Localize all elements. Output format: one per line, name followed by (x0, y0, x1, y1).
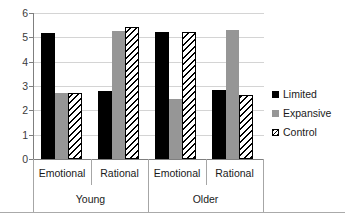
bottom-rule (0, 212, 345, 213)
bar-control-older-emotional[interactable] (182, 32, 196, 159)
y-axis-label-5: 5 (4, 32, 28, 43)
legend-label-limited: Limited (283, 89, 317, 100)
bar-limited-young-emotional[interactable] (41, 33, 55, 159)
bar-group-older-rational (210, 13, 258, 159)
legend-label-expansive: Expansive (283, 108, 331, 119)
bar-control-young-rational[interactable] (125, 27, 139, 159)
x-axis-label-emotional-young: Emotional (33, 168, 91, 179)
legend-swatch-limited-icon (272, 91, 279, 98)
legend: Limited Expansive Control (272, 86, 345, 143)
cat-separator-right (263, 159, 264, 212)
legend-label-control: Control (283, 127, 317, 138)
y-axis-label-6: 6 (4, 8, 28, 19)
bar-group-young-rational (96, 13, 144, 159)
y-axis-label-3: 3 (4, 81, 28, 92)
bar-expansive-young-emotional[interactable] (55, 93, 68, 159)
legend-swatch-control-icon (272, 129, 279, 136)
x-axis-group-label-young: Young (33, 194, 148, 205)
bar-expansive-older-rational[interactable] (226, 30, 239, 159)
x-axis-label-rational-young: Rational (91, 168, 148, 179)
y-axis-label-0: 0 (4, 154, 28, 165)
y-axis-label-1: 1 (4, 130, 28, 141)
legend-item-limited[interactable]: Limited (272, 86, 345, 102)
bar-limited-young-rational[interactable] (98, 91, 112, 159)
bar-expansive-older-emotional[interactable] (169, 99, 182, 159)
y-axis-label-2: 2 (4, 105, 28, 116)
bars-layer (33, 13, 264, 159)
bar-limited-older-emotional[interactable] (155, 32, 169, 159)
bar-group-young-emotional (39, 13, 87, 159)
bar-control-older-rational[interactable] (239, 95, 253, 159)
x-axis-group-label-older: Older (148, 194, 263, 205)
legend-item-expansive[interactable]: Expansive (272, 105, 345, 121)
y-axis-label-4: 4 (4, 57, 28, 68)
bar-expansive-young-rational[interactable] (112, 31, 125, 159)
bar-control-young-emotional[interactable] (68, 93, 82, 159)
x-axis-label-rational-older: Rational (206, 168, 263, 179)
legend-swatch-expansive-icon (272, 110, 279, 117)
bar-chart: 6 5 4 3 2 1 0 (0, 0, 345, 219)
x-axis-label-emotional-older: Emotional (148, 168, 206, 179)
legend-item-control[interactable]: Control (272, 124, 345, 140)
bar-group-older-emotional (153, 13, 201, 159)
bar-limited-older-rational[interactable] (212, 90, 226, 159)
